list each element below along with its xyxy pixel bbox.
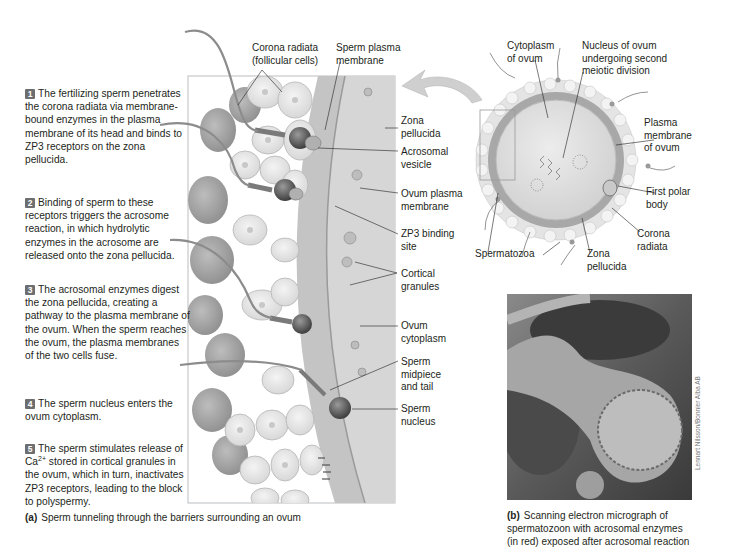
label-nucleus-of-ovum: Nucleus of ovum undergoing second meioti… [582,40,667,78]
label-sperm-plasma-membrane: Sperm plasma membrane [336,42,400,67]
label-first-polar-body: First polar body [646,186,690,211]
label-zp3-binding-site: ZP3 binding site [401,228,454,253]
label-sperm-nucleus: Sperm nucleus [401,403,435,428]
label-zona-pellucida-ovum: Zona pellucida [587,248,626,273]
step-text: The fertilizing sperm penetrates the cor… [25,88,182,165]
label-corona-radiata-ovum: Corona radiata [637,228,670,253]
step-badge: 1 [25,89,35,99]
step-badge: 4 [25,399,35,409]
label-acrosomal-vesicle: Acrosomal vesicle [401,146,448,171]
step-4: 4The sperm nucleus enters the ovum cytop… [25,397,190,423]
step-badge: 2 [25,198,35,208]
label-corona-radiata: Corona radiata (follicular cells) [252,42,318,67]
step-3: 3The acrosomal enzymes digest the zona p… [25,283,190,362]
arrow-icon [402,70,482,103]
label-ovum-cytoplasm: Ovum cytoplasm [401,320,446,345]
step-text: The sperm nucleus enters the ovum cytopl… [25,398,173,422]
caption-b: (b)Scanning electron micrograph of sperm… [507,509,689,548]
step-2: 2Binding of sperm to these receptors tri… [25,196,190,262]
step-badge: 5 [25,444,35,454]
photo-credit: Lennart Nilsson/Bonnier Alba AB [694,376,701,470]
label-sperm-midpiece-tail: Sperm midpiece and tail [401,356,441,394]
label-cytoplasm-of-ovum: Cytoplasm of ovum [507,40,554,65]
step-1: 1The fertilizing sperm penetrates the co… [25,87,190,166]
label-zona-pellucida: Zona pellucida [401,115,440,140]
caption-text: Sperm tunneling through the barriers sur… [41,512,301,523]
caption-letter: (a) [25,512,37,523]
label-spermatozoa: Spermatozoa [475,248,534,261]
label-plasma-membrane-of-ovum: Plasma membrane of ovum [644,117,692,155]
step-text: The acrosomal enzymes digest the zona pe… [25,284,190,361]
label-cortical-granules: Cortical granules [401,268,439,293]
step-5: 5The sperm stimulates release of Ca2+ st… [25,442,190,508]
electron-micrograph-b [500,294,692,500]
label-ovum-plasma-membrane: Ovum plasma membrane [401,188,463,213]
caption-a: (a)Sperm tunneling through the barriers … [25,511,301,524]
step-text: stored in cortical granules in the ovum,… [25,456,184,507]
step-text: Binding of sperm to these receptors trig… [25,197,175,261]
step-badge: 3 [25,285,35,295]
step-superscript: 2+ [38,455,46,462]
caption-letter: (b) [507,510,520,521]
illustration-a [160,31,395,510]
